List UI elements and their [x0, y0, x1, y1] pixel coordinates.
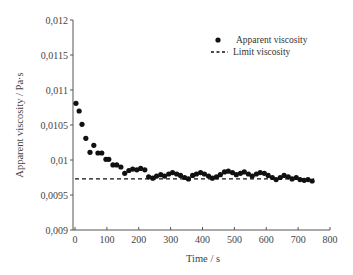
x-tick-label: 400 [195, 234, 210, 245]
legend-label-limit: Limit viscosity [233, 47, 291, 57]
y-tick-label: 0,0095 [41, 190, 69, 201]
y-tick-label: 0,011 [46, 85, 68, 96]
x-axis: 0100200300400500600700800 [73, 227, 338, 245]
x-tick-label: 700 [291, 234, 306, 245]
y-axis: 0,0090,00950,010,01050,0110,01150,012 [41, 15, 74, 236]
data-point [77, 108, 82, 113]
plot-area [73, 101, 314, 184]
y-tick-label: 0,0105 [41, 120, 69, 131]
data-point [99, 150, 104, 155]
data-point [73, 101, 78, 106]
chart: 0,0090,00950,010,01050,0110,01150,012 01… [0, 0, 353, 275]
y-tick-label: 0,012 [46, 15, 69, 26]
x-tick-label: 300 [163, 234, 178, 245]
x-tick-label: 500 [227, 234, 242, 245]
x-tick-label: 0 [73, 234, 78, 245]
x-tick-label: 600 [259, 234, 274, 245]
y-tick-label: 0,01 [51, 155, 69, 166]
data-point [106, 157, 111, 162]
x-tick-label: 800 [323, 234, 338, 245]
data-point [118, 164, 123, 169]
data-point [87, 150, 92, 155]
data-point [79, 122, 84, 127]
y-axis-title: Apparent viscosity / Pa·s [14, 72, 25, 177]
legend-label-apparent: Apparent viscosity [236, 35, 308, 45]
y-tick-label: 0,009 [46, 225, 69, 236]
x-tick-label: 200 [131, 234, 146, 245]
data-point [91, 143, 96, 148]
legend: Apparent viscosity Limit viscosity [211, 35, 308, 57]
y-tick-label: 0,0115 [41, 50, 68, 61]
x-tick-label: 100 [99, 234, 114, 245]
x-axis-title: Time / s [186, 253, 220, 264]
data-point [83, 136, 88, 141]
legend-dot-icon [215, 37, 220, 42]
data-point [142, 167, 147, 172]
